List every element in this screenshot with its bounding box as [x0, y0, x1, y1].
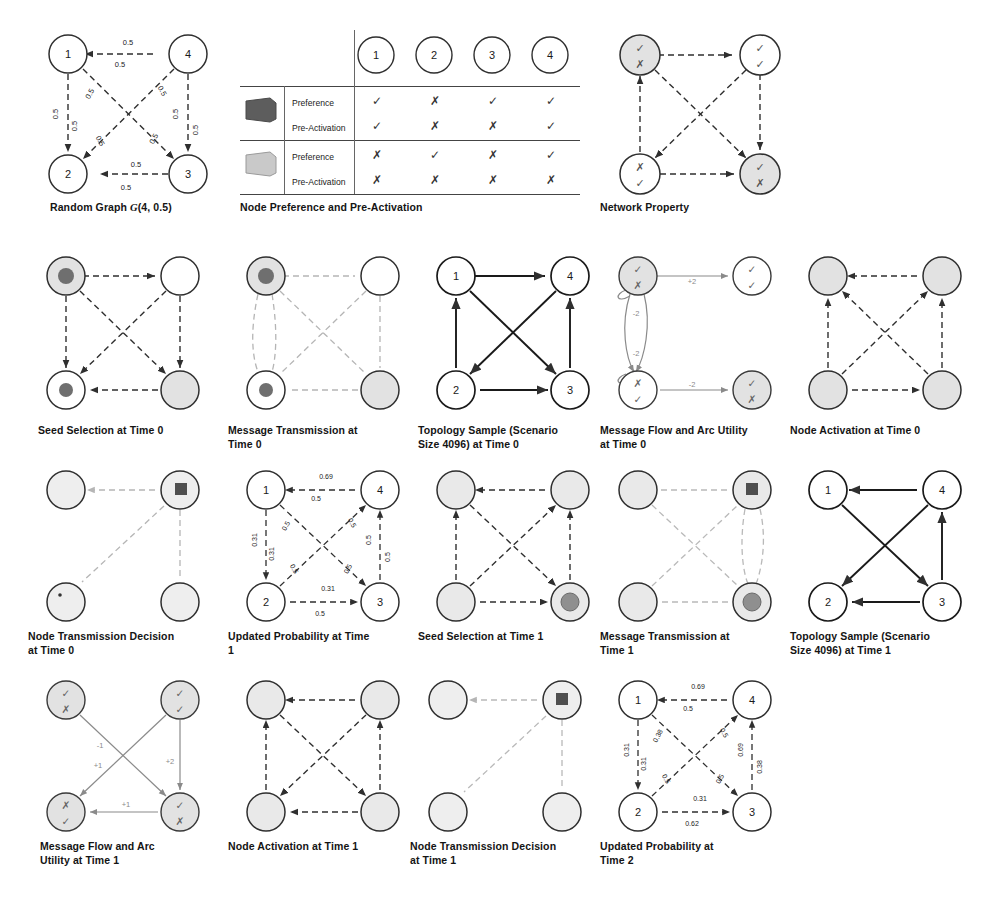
edge-label-top-below: 0.5	[683, 705, 693, 712]
caption-line-1: Node Transmission Decision	[410, 840, 585, 854]
caption-node-preference: Node Preference and Pre-Activation	[240, 201, 540, 215]
edge-label-diag1-a: 0.38	[652, 728, 665, 743]
edge-label-right-b: 0.5	[384, 552, 391, 562]
table-header-4: 4	[547, 49, 553, 61]
table-divider-values	[354, 30, 355, 194]
panel-random-graph: 1 4 2 3 0.5 0.5 0.5 0.5 0.5 0.5 0.5 0.5 …	[28, 22, 228, 202]
node-br	[161, 371, 199, 409]
node-label-1: 1	[263, 484, 269, 496]
message-flow-t1-figure: ✓ ✗ ✓ ✓ ✗ ✓ ✓ ✗ -1 +1 +2 +1	[28, 672, 218, 837]
node-label-1: 1	[453, 270, 459, 282]
node-tr-transmit-marker	[175, 483, 187, 495]
table-rule-top	[240, 86, 580, 87]
edge-label-bottom-above: 0.31	[693, 795, 707, 802]
chip-light-icon	[244, 151, 278, 177]
caption-text-suffix: (4, 0.5)	[138, 201, 172, 213]
node-tl	[437, 471, 475, 509]
table-cell-g2r1c3: ✗	[488, 148, 498, 162]
panel-message-transmission-t0	[228, 246, 418, 416]
node-br	[543, 793, 581, 831]
edge-label-left-a: 0.5	[51, 109, 60, 119]
caption-line-2: Utility at Time 1	[40, 854, 215, 868]
table-header-2: 2	[431, 49, 437, 61]
edge-label-bottom-below: 0.62	[685, 820, 699, 827]
panel-updated-probability-t1: 1 4 2 3 0.69 0.5 0.31 0.31 0.5 0.5 0.31 …	[228, 462, 418, 627]
caption-line-2: at Time 0	[600, 438, 780, 452]
topology-sample-t0-figure: 1 4 2 3	[418, 246, 608, 416]
node-tr-check2-icon: ✓	[755, 58, 764, 70]
edge-label-top-above: 0.69	[691, 683, 705, 690]
table-rule-mid	[240, 140, 580, 141]
arc-label-bottom: +1	[122, 800, 131, 809]
table-cell-g1r1c1: ✓	[372, 94, 382, 108]
node-tl-check-icon: ✓	[635, 42, 644, 54]
caption-topology-sample-t0: Topology Sample (Scenario Size 4096) at …	[418, 424, 593, 451]
edge-label-right-b: 0.38	[756, 760, 763, 774]
node-bl-cross-icon: ✗	[62, 799, 71, 811]
node-bl	[619, 583, 657, 621]
node-tr-check-icon: ✓	[176, 687, 185, 699]
panel-node-preference-table: 1 2 3 4 Preference Pre-Activation Prefer…	[240, 22, 580, 197]
message-transmission-t1-figure	[600, 462, 790, 627]
node-bl-seed-marker	[59, 383, 73, 397]
table-cell-g2r1c4: ✓	[546, 148, 556, 162]
node-label-3: 3	[749, 806, 755, 818]
node-transmission-t0-figure	[28, 462, 218, 627]
arc-label-bottom: -2	[689, 380, 696, 389]
node-tl	[429, 681, 467, 719]
caption-message-flow-t0: Message Flow and Arc Utility at Time 0	[600, 424, 780, 451]
arc-label-diag2: +1	[94, 761, 103, 770]
edge-label-bottom-below: 0.5	[121, 183, 131, 192]
caption-line-2: at Time 0	[28, 644, 208, 658]
node-tl	[809, 257, 847, 295]
table-cell-g1r1c3: ✓	[488, 94, 498, 108]
caption-line-1: Updated Probability at	[600, 840, 775, 854]
caption-network-property: Network Property	[600, 201, 800, 215]
table-rule-bottom	[240, 194, 580, 195]
panel-node-activation-t0	[790, 246, 980, 416]
caption-line-1: Message Flow and Arc	[40, 840, 215, 854]
node-label-1: 1	[635, 694, 641, 706]
edge-label-diag2-b: 0.5	[289, 563, 300, 575]
caption-message-flow-t1: Message Flow and Arc Utility at Time 1	[40, 840, 215, 867]
random-graph-figure: 1 4 2 3 0.5 0.5 0.5 0.5 0.5 0.5 0.5 0.5 …	[28, 22, 228, 202]
edge-label-top-above: 0.5	[123, 38, 133, 47]
caption-node-activation-t0: Node Activation at Time 0	[790, 424, 970, 438]
caption-line-1: Updated Probability at Time	[228, 630, 403, 644]
caption-line-2: at Time 1	[410, 854, 585, 868]
node-bl-check-icon: ✓	[635, 177, 644, 189]
panel-node-transmission-decision-t0	[28, 462, 218, 627]
node-tl	[47, 471, 85, 509]
table-header-1: 1	[373, 49, 379, 61]
edge-label-left-b: 0.5	[70, 121, 79, 131]
node-tr	[161, 257, 199, 295]
node-tl-check-icon: ✓	[62, 687, 71, 699]
caption-text-prefix: Random Graph	[50, 201, 130, 213]
node-br-cross-icon: ✗	[755, 177, 764, 189]
node-br	[923, 371, 961, 409]
panel-seed-selection-t0	[28, 246, 218, 416]
node-tr-transmit-marker	[556, 693, 568, 705]
node-tl-seed-marker	[258, 268, 274, 284]
panel-network-property: ✓ ✗ ✓ ✓ ✗ ✓ ✓ ✗	[600, 22, 800, 202]
edge-label-diag2-b: 0.5	[94, 134, 107, 147]
node-br-seed-marker	[561, 593, 579, 611]
node-label-4: 4	[377, 484, 383, 496]
caption-line-1: Topology Sample (Scenario	[790, 630, 965, 644]
caption-updated-probability-t1: Updated Probability at Time 1	[228, 630, 403, 657]
caption-line-2: Size 4096) at Time 0	[418, 438, 593, 452]
node-br-seed-marker	[743, 593, 761, 611]
node-br-cross-icon: ✗	[176, 815, 185, 827]
node-tl-seed-marker	[58, 268, 74, 284]
caption-updated-probability-t2: Updated Probability at Time 2	[600, 840, 775, 867]
node-bl	[809, 371, 847, 409]
node-tr-check-icon: ✓	[748, 263, 757, 275]
caption-line-1: Topology Sample (Scenario	[418, 424, 593, 438]
node-label-3: 3	[567, 384, 573, 396]
edge-label-right-a: 0.5	[365, 535, 372, 545]
node-br	[161, 583, 199, 621]
node-br	[361, 371, 399, 409]
seed-selection-t0-figure	[28, 246, 218, 416]
node-label-4: 4	[939, 484, 945, 496]
caption-line-2: Size 4096) at Time 1	[790, 644, 965, 658]
